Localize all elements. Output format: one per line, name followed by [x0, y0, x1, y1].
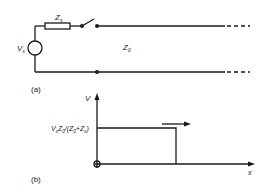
v-axis-label: V — [85, 94, 91, 103]
line-impedance-label: Z0 — [122, 43, 131, 53]
part-a-label: (a) — [31, 85, 41, 94]
voltage-source-icon — [28, 41, 42, 55]
x-axis-arrowhead-icon — [248, 162, 255, 167]
graph-b — [94, 98, 250, 168]
circuit-a — [28, 19, 250, 72]
source-impedance-resistor-icon — [45, 23, 70, 29]
v-axis-arrowhead-icon — [95, 93, 100, 100]
switch-terminal-right-icon — [95, 24, 99, 28]
switch-blade-icon — [82, 19, 94, 26]
step-level-label: VsZ0/(Z0+Zs) — [51, 125, 89, 134]
part-b-label: (b) — [31, 175, 41, 184]
direction-arrowhead-icon — [184, 122, 191, 127]
bottom-terminal-icon — [95, 70, 99, 74]
source-impedance-label: Zs — [54, 13, 63, 23]
x-axis-label: x — [247, 169, 252, 176]
step-wavefront — [97, 128, 176, 164]
transmission-line-diagram: Zs Vs Z0 (a) V x VsZ0/(Z0+Zs) (b) — [0, 0, 277, 192]
source-voltage-label: Vs — [17, 44, 25, 54]
switch-terminal-left-icon — [80, 24, 84, 28]
